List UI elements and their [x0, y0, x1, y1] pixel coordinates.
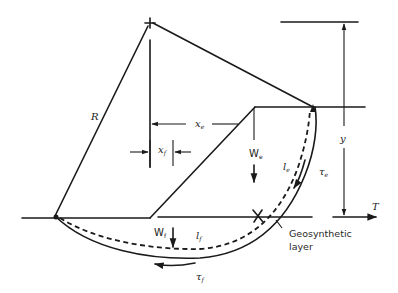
geosynthetic-pointer: [276, 220, 282, 228]
Wf-label: Wf: [154, 227, 167, 239]
tau-f-arrow: [155, 263, 195, 265]
y-label: y: [339, 133, 346, 144]
lf-label: lf: [196, 230, 203, 243]
xf-label: xf: [158, 144, 168, 157]
intersection-mark-icon: [253, 210, 263, 222]
tau-e-label: τe: [319, 166, 329, 178]
le-label: le: [283, 161, 290, 173]
tau-f-label: τf: [196, 271, 206, 284]
R-label: R: [90, 111, 99, 122]
slip-toe-point: [54, 215, 59, 220]
radius-line-right: [153, 23, 313, 107]
slip-circle-diagram: y T Geosynthetic layer R xe xf We le τe …: [0, 0, 398, 293]
We-label: We: [249, 148, 263, 160]
geosynthetic-label-line2: layer: [289, 241, 313, 252]
slip-surface: [55, 107, 316, 258]
T-label: T: [372, 201, 380, 212]
xe-label: xe: [195, 118, 205, 130]
radius-line-left: [55, 26, 148, 216]
geosynthetic-label-line1: Geosynthetic: [289, 228, 352, 239]
